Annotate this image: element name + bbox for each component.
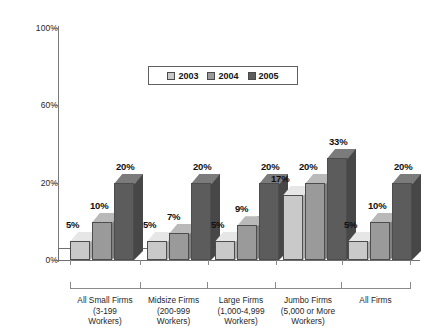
- category-tick: [207, 282, 208, 289]
- legend-swatch-2003: [167, 72, 175, 80]
- bar-value-label: 20%: [116, 161, 134, 172]
- bar-front-face: [114, 183, 134, 260]
- bar-value-label: 10%: [368, 200, 386, 211]
- y-tick-mark: [52, 183, 59, 184]
- floor-left-edge: [58, 248, 59, 261]
- bar-front-face: [283, 195, 303, 260]
- bar-2005-group-5: [392, 174, 420, 260]
- bar-front-face: [215, 241, 235, 260]
- bar-edge: [147, 241, 167, 242]
- chart-legend: 2003 2004 2005: [148, 66, 298, 85]
- category-tick: [140, 282, 141, 289]
- bar-2005-group-1: [114, 174, 142, 260]
- bar-front-face: [92, 222, 112, 261]
- bar-front-face: [370, 222, 390, 261]
- category-tick: [341, 282, 342, 289]
- bar-value-label: 5%: [344, 219, 357, 230]
- y-tick-mark: [52, 105, 59, 106]
- bar-edge: [305, 183, 325, 184]
- bar-front-face: [305, 183, 325, 260]
- baseline-tick: [70, 260, 71, 265]
- bar-value-label: 33%: [329, 136, 347, 147]
- bar-value-label: 10%: [90, 200, 108, 211]
- bar-edge: [114, 183, 134, 184]
- legend-label-2004: 2004: [218, 71, 238, 81]
- category-tick: [70, 282, 71, 289]
- legend-swatch-2004: [207, 72, 215, 80]
- bar-edge: [327, 158, 347, 159]
- bar-front-face: [259, 183, 279, 260]
- legend-item-2004[interactable]: 2004: [207, 71, 238, 81]
- y-axis-line: [58, 26, 59, 262]
- baseline-tick: [410, 260, 411, 265]
- baseline-tick: [208, 260, 209, 265]
- bar-front-face: [327, 158, 347, 260]
- bar-edge: [92, 222, 112, 223]
- bar-edge: [237, 225, 257, 226]
- legend-item-2003[interactable]: 2003: [167, 71, 198, 81]
- bar-front-face: [392, 183, 412, 260]
- baseline-tick: [276, 260, 277, 265]
- bar-edge: [169, 233, 189, 234]
- category-tick: [275, 282, 276, 289]
- bar-front-face: [70, 241, 90, 260]
- bar-edge: [392, 183, 412, 184]
- bar-edge: [191, 183, 211, 184]
- floor-front-edge: [58, 260, 420, 261]
- chart-root: 100%60%20%0% 5%10%20%5%7%20%5%9%20%17%20…: [0, 0, 435, 336]
- category-axis-line: [70, 288, 410, 289]
- bar-value-label: 5%: [66, 219, 79, 230]
- baseline-tick: [342, 260, 343, 265]
- bar-edge: [215, 241, 235, 242]
- legend-item-2005[interactable]: 2005: [248, 71, 279, 81]
- legend-label-2005: 2005: [259, 71, 279, 81]
- y-tick-mark: [52, 28, 59, 29]
- bar-front-face: [237, 225, 257, 260]
- bar-value-label: 5%: [211, 219, 224, 230]
- category-tick: [410, 282, 411, 289]
- bar-value-label: 7%: [167, 211, 180, 222]
- bar-value-label: 9%: [235, 203, 248, 214]
- bar-edge: [283, 195, 303, 196]
- bar-side-face: [134, 174, 143, 260]
- bar-front-face: [191, 183, 211, 260]
- bar-value-label: 20%: [261, 161, 279, 172]
- bar-side-face: [412, 174, 421, 260]
- bar-value-label: 20%: [193, 161, 211, 172]
- bar-edge: [348, 241, 368, 242]
- baseline-tick: [140, 260, 141, 265]
- bar-value-label: 20%: [394, 161, 412, 172]
- bar-front-face: [348, 241, 368, 260]
- bar-front-face: [169, 233, 189, 260]
- legend-label-2003: 2003: [178, 71, 198, 81]
- bar-edge: [370, 222, 390, 223]
- category-label-5: All Firms: [335, 295, 416, 306]
- bar-edge: [70, 241, 90, 242]
- bar-value-label: 5%: [143, 219, 156, 230]
- bar-value-label: 17%: [271, 173, 289, 184]
- bar-front-face: [147, 241, 167, 260]
- bar-value-label: 20%: [299, 161, 317, 172]
- legend-swatch-2005: [248, 72, 256, 80]
